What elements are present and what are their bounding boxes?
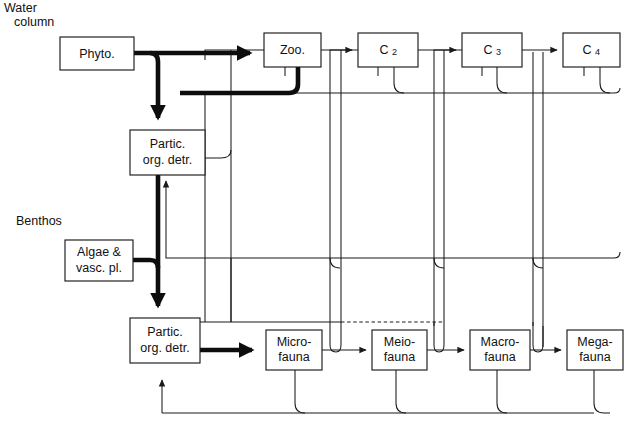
box-microfauna[interactable]: Micro- fauna	[266, 330, 322, 370]
flow-phyto-to-pod-pelagic	[150, 53, 158, 118]
food-web-svg: Phyto. Zoo. C 2 C 3 C 4	[0, 0, 635, 421]
box-pod-benthic-line1: Partic.	[147, 325, 182, 339]
flow-uloop-microfauna	[330, 322, 341, 352]
box-c2-subscript: 2	[392, 47, 397, 57]
box-c4[interactable]: C 4	[563, 33, 620, 67]
flow-mega-bottom-drop	[594, 370, 604, 413]
box-zoo-label: Zoo.	[280, 43, 305, 57]
box-algae-line1: Algae &	[77, 245, 121, 259]
flow-macro-bottom-drop	[497, 370, 507, 413]
flow-pod-pelagic-outlet	[205, 150, 231, 158]
zone-label-layer: Water column Benthos	[4, 1, 62, 228]
box-macrofauna[interactable]: Macro- fauna	[470, 330, 530, 370]
flow-algae-to-pod-benthic	[133, 260, 158, 268]
box-pod-benthic-line2: org. detr.	[140, 341, 189, 355]
zone-label-water-column-line2: column	[14, 15, 54, 29]
zone-label-benthos: Benthos	[16, 214, 62, 228]
zone-label-water-column-line1: Water	[4, 1, 37, 15]
box-c3-label: C	[483, 43, 492, 57]
flow-up-into-pod-pelagic-feed	[166, 228, 205, 258]
box-c2-label: C	[379, 43, 388, 57]
box-microfauna-line1: Micro-	[277, 335, 312, 349]
box-meiofauna[interactable]: Meio- fauna	[372, 330, 427, 370]
box-algae-line2: vasc. pl.	[76, 261, 122, 275]
box-pod-pelagic-line1: Partic.	[150, 137, 185, 151]
box-c4-subscript: 4	[595, 47, 600, 57]
box-megafauna-line1: Mega-	[577, 335, 612, 349]
flow-c4-to-return	[600, 67, 610, 93]
flow-mid-drop-b	[330, 258, 340, 268]
box-megafauna-line2: fauna	[579, 350, 610, 364]
box-megafauna[interactable]: Mega- fauna	[567, 330, 623, 370]
flow-mid-drop-d	[533, 258, 543, 268]
box-meiofauna-line2: fauna	[384, 350, 415, 364]
flow-benthic-mid-trunk	[205, 252, 620, 258]
box-phyto-label: Phyto.	[79, 47, 114, 61]
box-meiofauna-line1: Meio-	[384, 335, 415, 349]
box-macrofauna-line2: fauna	[484, 350, 515, 364]
food-web-diagram: Phyto. Zoo. C 2 C 3 C 4	[0, 0, 635, 421]
flow-micro-bottom-drop	[295, 370, 305, 413]
box-microfauna-line2: fauna	[278, 350, 309, 364]
flow-c3-to-return	[497, 67, 507, 93]
flow-uloop-macrofauna	[533, 322, 543, 352]
thick-flow-network	[133, 53, 298, 350]
box-pod-pelagic[interactable]: Partic. org. detr.	[130, 130, 205, 175]
box-c3[interactable]: C 3	[462, 33, 522, 67]
flow-meio-bottom-drop	[396, 370, 406, 413]
box-phyto[interactable]: Phyto.	[60, 37, 134, 70]
flow-c2-to-return	[394, 67, 404, 93]
box-pod-pelagic-line2: org. detr.	[143, 153, 192, 167]
flow-uloop-meiofauna	[434, 322, 444, 352]
box-pod-benthic[interactable]: Partic. org. detr.	[130, 318, 200, 363]
box-algae[interactable]: Algae & vasc. pl.	[65, 240, 133, 281]
box-c2[interactable]: C 2	[358, 33, 418, 67]
box-macrofauna-line1: Macro-	[481, 335, 520, 349]
flow-zoo-to-pelagic-return	[180, 67, 298, 93]
box-c4-label: C	[582, 43, 591, 57]
box-c3-subscript: 3	[496, 47, 501, 57]
flow-mid-drop-c	[434, 258, 444, 268]
box-zoo[interactable]: Zoo.	[264, 33, 321, 67]
